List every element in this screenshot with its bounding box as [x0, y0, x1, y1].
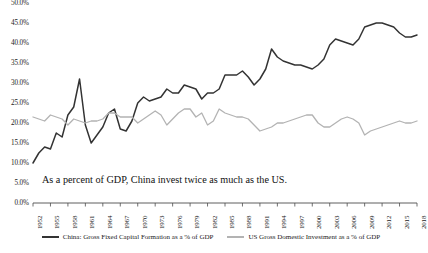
y-axis-tick-label: 25.0%	[0, 99, 29, 107]
x-axis-tick-label: 1952	[36, 216, 44, 229]
x-axis-tick-label: 2009	[368, 216, 376, 229]
x-axis-tick-label: 1973	[158, 216, 166, 229]
y-axis-tick-label: 50.0%	[0, 0, 29, 7]
x-axis-tick-label: 2018	[420, 216, 428, 229]
legend-item[interactable]: China: Gross Fixed Capital Formation as …	[42, 233, 214, 241]
series-line-2	[33, 109, 417, 135]
chart-legend: China: Gross Fixed Capital Formation as …	[0, 233, 422, 241]
x-axis-tick-label: 1997	[298, 216, 306, 229]
chart-annotation: As a percent of GDP, China invest twice …	[42, 174, 287, 185]
x-axis-tick-label: 1985	[228, 216, 236, 229]
x-axis-tick-label: 1988	[245, 216, 253, 229]
legend-swatch-icon	[42, 236, 59, 239]
x-axis-tick-label: 2015	[403, 216, 411, 229]
x-axis-tick-label: 2006	[350, 216, 358, 229]
y-axis-tick-label: 10.0%	[0, 159, 29, 167]
legend-label: US Gross Domestic Investment as a % of G…	[248, 233, 380, 241]
x-axis-tick-label: 1994	[280, 216, 288, 229]
x-axis-tick-label: 1991	[263, 216, 271, 229]
legend-item[interactable]: US Gross Domestic Investment as a % of G…	[227, 233, 380, 241]
x-axis-tick-label: 1961	[88, 216, 96, 229]
x-axis-tick-label: 1976	[176, 216, 184, 229]
y-axis-tick-label: 30.0%	[0, 79, 29, 87]
series-line-1	[33, 23, 417, 163]
x-axis-tick-label: 1955	[53, 216, 61, 229]
x-axis-tick-label: 1964	[106, 216, 114, 229]
y-axis-tick-label: 40.0%	[0, 39, 29, 47]
x-axis-tick-label: 1982	[211, 216, 219, 229]
x-axis-tick-label: 1967	[123, 216, 131, 229]
legend-swatch-icon	[227, 236, 244, 239]
y-axis-tick-label: 0.0%	[0, 199, 29, 207]
y-axis-tick-label: 5.0%	[0, 179, 29, 187]
x-axis-tick-label: 2003	[333, 216, 341, 229]
y-axis-tick-label: 35.0%	[0, 59, 29, 67]
x-axis-tick-label: 2000	[315, 216, 323, 229]
y-axis-tick-label: 45.0%	[0, 19, 29, 27]
x-axis-tick-label: 1979	[193, 216, 201, 229]
legend-label: China: Gross Fixed Capital Formation as …	[63, 233, 214, 241]
y-axis-tick-label: 15.0%	[0, 139, 29, 147]
x-axis-tick-label: 2012	[385, 216, 393, 229]
x-axis-tick-label: 1958	[71, 216, 79, 229]
y-axis-tick-label: 20.0%	[0, 119, 29, 127]
x-axis-tick-label: 1970	[141, 216, 149, 229]
